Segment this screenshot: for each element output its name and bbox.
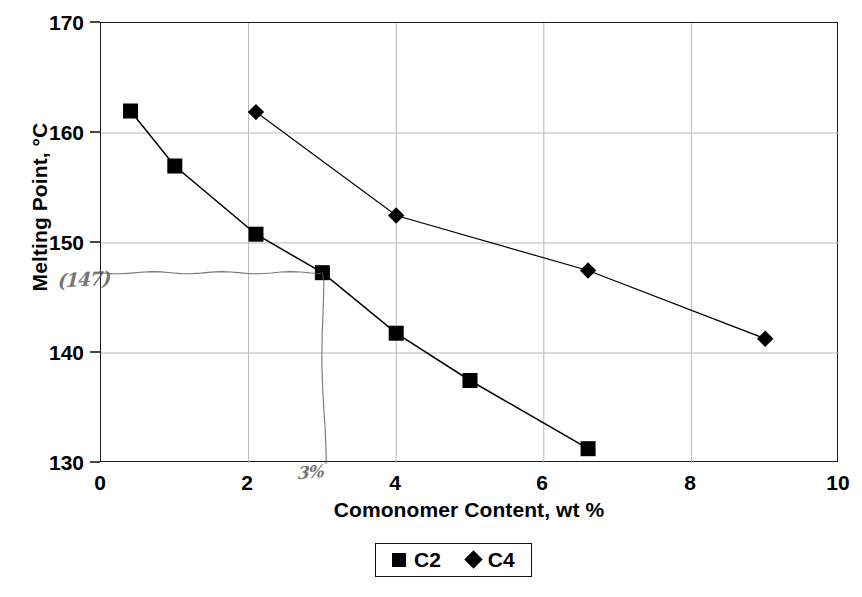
x-axis-title: Comonomer Content, wt % [100,498,838,522]
x-tick-label-2: 2 [217,472,277,493]
y-tick-label-130: 130 [12,452,84,473]
legend-label-c4: C4 [488,549,515,570]
y-tick-label-150: 150 [12,232,84,253]
x-tick-label-6: 6 [512,472,572,493]
y-axis-title: Melting Point, °C [28,57,52,357]
y-tick-label-170: 170 [12,12,84,33]
legend: C2 C4 [375,543,532,577]
melting-point-chart: Melting Point, °C 170 160 150 140 130 0 … [0,0,862,597]
x-tick-label-4: 4 [365,472,425,493]
y-axis-ticks [88,14,108,474]
legend-entry-c4: C4 [467,549,515,570]
handwritten-x-readout: 3% [298,461,325,483]
y-tick-label-140: 140 [12,342,84,363]
square-marker-icon [392,553,406,567]
handwritten-y-readout: (147) [57,267,111,292]
legend-label-c2: C2 [414,549,441,570]
y-tick-label-160: 160 [12,122,84,143]
x-tick-label-8: 8 [660,472,720,493]
x-tick-label-0: 0 [70,472,130,493]
legend-entry-c2: C2 [392,549,441,570]
diamond-marker-icon [464,550,482,568]
handwritten-guide-lines [101,23,839,463]
x-tick-label-10: 10 [808,472,862,493]
plot-area [100,22,838,462]
